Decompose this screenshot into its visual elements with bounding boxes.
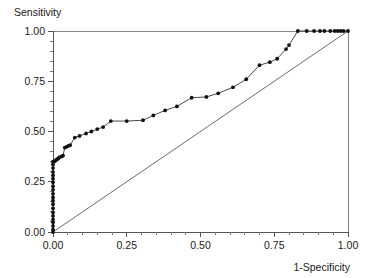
roc-point <box>51 180 55 184</box>
roc-point <box>151 114 155 118</box>
roc-point <box>275 57 279 61</box>
roc-point <box>231 85 235 89</box>
roc-point <box>287 43 291 47</box>
x-tick-label: 0.50 <box>190 239 211 251</box>
roc-point <box>95 127 99 131</box>
y-axis-tick-labels: 0.000.250.500.751.00 <box>25 25 46 238</box>
roc-point <box>163 109 167 113</box>
roc-point <box>190 96 194 100</box>
y-axis-title: Sensitivity <box>14 6 62 18</box>
roc-point <box>268 60 272 64</box>
roc-point <box>51 184 55 188</box>
roc-point <box>342 29 346 33</box>
roc-point <box>51 166 55 170</box>
y-tick-label: 0.25 <box>25 175 46 187</box>
x-tick-label: 0.00 <box>43 239 64 251</box>
x-axis-tick-labels: 0.000.250.500.751.00 <box>43 239 359 251</box>
roc-point <box>89 130 93 134</box>
roc-point <box>51 228 55 232</box>
y-tick-label: 0.75 <box>25 75 46 87</box>
roc-point <box>51 218 55 222</box>
reference-diagonal-line <box>53 31 348 232</box>
roc-point <box>51 196 55 200</box>
x-tick-label: 1.00 <box>338 239 359 251</box>
x-axis-title: 1-Specificity <box>293 261 350 273</box>
roc-point <box>68 143 72 147</box>
roc-point <box>312 29 316 33</box>
roc-point <box>51 214 55 218</box>
roc-point <box>51 206 55 210</box>
roc-point <box>141 118 145 122</box>
roc-chart-figure: Sensitivity 1-Specificity 0.000.250.500.… <box>0 0 368 278</box>
x-tick-label: 0.25 <box>117 239 138 251</box>
roc-point <box>51 202 55 206</box>
roc-point <box>125 119 129 123</box>
roc-chart-canvas: Sensitivity 1-Specificity 0.000.250.500.… <box>0 0 368 278</box>
x-axis-ticks <box>53 232 348 237</box>
x-tick-label: 0.75 <box>264 239 285 251</box>
roc-point <box>216 91 220 95</box>
roc-point <box>51 188 55 192</box>
roc-point <box>284 47 288 51</box>
roc-point <box>101 125 105 129</box>
roc-point <box>205 95 209 99</box>
roc-point <box>328 29 332 33</box>
roc-point <box>51 177 55 181</box>
roc-point <box>78 134 82 138</box>
roc-point <box>244 77 248 81</box>
y-tick-label: 0.00 <box>25 226 46 238</box>
roc-point <box>73 136 77 140</box>
roc-point <box>109 119 113 123</box>
roc-point <box>51 192 55 196</box>
roc-point <box>318 29 322 33</box>
roc-point <box>346 29 350 33</box>
roc-point <box>296 29 300 33</box>
roc-point <box>175 104 179 108</box>
roc-point <box>258 63 262 67</box>
y-tick-label: 0.50 <box>25 125 46 137</box>
roc-point <box>51 170 55 174</box>
roc-point <box>51 224 55 228</box>
roc-point <box>84 132 88 136</box>
roc-point <box>51 210 55 214</box>
y-tick-label: 1.00 <box>25 25 46 37</box>
roc-point <box>305 29 309 33</box>
roc-point <box>323 29 327 33</box>
roc-point <box>61 154 65 158</box>
